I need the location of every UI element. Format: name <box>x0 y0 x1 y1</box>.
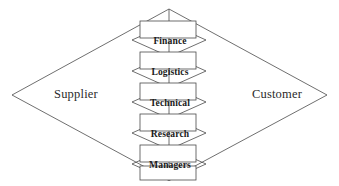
dept-label-managers: Managers <box>110 159 230 170</box>
dept-label-technical: Technical <box>110 97 230 108</box>
dept-label-research: Research <box>110 128 230 139</box>
dept-label-logistics: Logistics <box>110 66 230 77</box>
diagram-canvas: Supplier Customer Finance Logistics Tech… <box>0 0 339 186</box>
dept-label-finance: Finance <box>110 35 230 46</box>
customer-label: Customer <box>234 87 320 102</box>
supplier-label: Supplier <box>36 87 116 102</box>
